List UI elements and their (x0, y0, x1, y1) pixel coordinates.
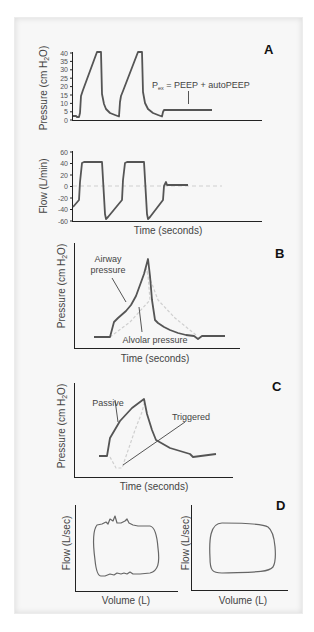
irregular-loop-trace (94, 516, 159, 576)
svg-text:40: 40 (60, 50, 68, 57)
airway-label-line2: pressure (90, 265, 125, 275)
pressure-time-chart: Pressure (cm H2O) 40 35 30 25 20 15 10 5… (38, 46, 262, 130)
airway-pointer-line (112, 278, 126, 302)
panel-letter-c: C (272, 379, 282, 394)
panel-letter-b: B (275, 246, 284, 261)
svg-text:5: 5 (64, 108, 68, 115)
svg-text:25: 25 (60, 75, 68, 82)
svg-text:30: 30 (60, 66, 68, 73)
triggered-label: Triggered (172, 412, 210, 422)
svg-text:-20: -20 (58, 195, 68, 202)
svg-text:60: 60 (60, 149, 68, 156)
volume-axis-title-d-right: Volume (L) (219, 595, 267, 606)
pressure-y-ticks: 40 35 30 25 20 15 10 5 0 (60, 50, 68, 124)
time-axis-title-b: Time (seconds) (121, 353, 190, 364)
volume-axis-title-d-left: Volume (L) (102, 595, 150, 606)
pressure-axis-title-c: Pressure (cm H2O) (56, 384, 68, 468)
svg-text:40: 40 (60, 160, 68, 167)
triggered-pointer-line (123, 422, 185, 465)
panel-c: C Pressure (cm H2O) Passive Triggered Ti… (56, 379, 282, 492)
time-axis-title-a: Time (seconds) (134, 225, 203, 236)
panel-letter-d: D (276, 498, 285, 513)
smooth-loop-trace (210, 523, 276, 573)
flow-axis-title-d-right: Flow (L/sec) (180, 516, 191, 570)
panel-b: B Pressure (cm H2O) Airway pressure Alvo… (56, 243, 284, 364)
flow-trace (73, 162, 188, 219)
svg-text:0: 0 (64, 183, 68, 190)
flow-y-ticks: 60 40 20 0 -20 -40 -60 (58, 149, 68, 225)
panel-a: A Pressure (cm H2O) 40 35 30 25 20 15 10… (38, 42, 274, 236)
flow-volume-loop-right: Flow (L/sec) Volume (L) (180, 505, 288, 606)
flow-volume-loop-left: Flow (L/sec) Volume (L) (61, 505, 178, 606)
axes-d-right (191, 505, 288, 591)
axes-d-left (75, 505, 178, 592)
svg-text:-60: -60 (58, 218, 68, 225)
figure-canvas: A Pressure (cm H2O) 40 35 30 25 20 15 10… (0, 0, 314, 632)
svg-text:35: 35 (60, 58, 68, 65)
svg-text:20: 20 (60, 172, 68, 179)
flow-axis-title: Flow (L/min) (38, 158, 49, 213)
pex-annotation: Pex = PEEP + autoPEEP (152, 80, 250, 91)
panel-letter-a: A (264, 42, 274, 57)
svg-text:10: 10 (60, 100, 68, 107)
svg-text:0: 0 (64, 117, 68, 124)
flow-axis-title-d-left: Flow (L/sec) (61, 516, 72, 570)
svg-text:15: 15 (60, 92, 68, 99)
svg-text:-40: -40 (58, 206, 68, 213)
pressure-axis-title-b: Pressure (cm H2O) (56, 244, 68, 328)
pressure-axis-title: Pressure (cm H2O) (38, 46, 50, 130)
passive-label: Passive (92, 398, 124, 408)
panel-d: D Flow (L/sec) Volume (L) Flow (L/sec) V… (61, 498, 288, 606)
airway-label-line1: Airway (94, 254, 122, 264)
flow-time-chart: Flow (L/min) 60 40 20 0 -20 -40 -60 (38, 149, 262, 225)
time-axis-title-c: Time (seconds) (120, 481, 189, 492)
triggered-dashed-trace (110, 400, 145, 468)
svg-text:20: 20 (60, 83, 68, 90)
alveolar-label: Alvolar pressure (122, 335, 187, 345)
